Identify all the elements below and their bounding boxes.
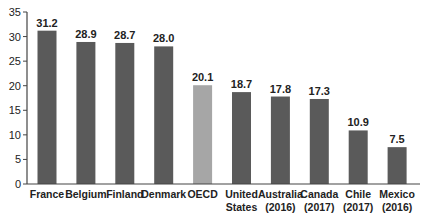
bar (349, 130, 368, 184)
bars: 31.228.928.728.020.118.717.817.310.97.5 (36, 17, 406, 184)
bar (193, 85, 212, 184)
x-category-label: (2016) (382, 201, 412, 213)
y-tick-label: 15 (9, 104, 21, 116)
x-axis: FranceBelgiumFinlandDenmarkOECDUnitedSta… (27, 184, 420, 213)
x-category-label: Finland (106, 188, 143, 200)
y-tick-label: 20 (9, 80, 21, 92)
y-tick-label: 25 (9, 55, 21, 67)
y-axis: 05101520253035 (9, 6, 27, 190)
bar-chart: 05101520253035 31.228.928.728.020.118.71… (0, 0, 432, 218)
x-category-label: Belgium (65, 188, 106, 200)
y-tick-label: 10 (9, 129, 21, 141)
x-category-label: States (226, 201, 258, 213)
x-category-label: Denmark (141, 188, 186, 200)
bar-value-label: 28.0 (153, 32, 174, 44)
y-tick-label: 0 (15, 178, 21, 190)
bar (271, 97, 290, 184)
bar-value-label: 28.7 (114, 29, 135, 41)
bar (388, 147, 407, 184)
x-category-label: (2017) (304, 201, 334, 213)
x-category-label: Australia (258, 188, 303, 200)
x-category-label: (2017) (343, 201, 373, 213)
x-category-label: Canada (300, 188, 338, 200)
x-category-label: France (30, 188, 65, 200)
bar-value-label: 17.3 (309, 85, 330, 97)
x-category-label: Mexico (379, 188, 415, 200)
bar (310, 99, 329, 184)
bar-value-label: 7.5 (389, 133, 404, 145)
bar-value-label: 20.1 (192, 71, 213, 83)
x-category-label: United (225, 188, 258, 200)
y-tick-label: 30 (9, 31, 21, 43)
y-tick-label: 5 (15, 153, 21, 165)
x-category-label: OECD (187, 188, 218, 200)
bar-value-label: 28.9 (75, 28, 96, 40)
bar (76, 42, 95, 184)
x-category-label: (2016) (265, 201, 295, 213)
bar (38, 31, 57, 184)
x-category-label: Chile (345, 188, 371, 200)
bar-value-label: 10.9 (347, 116, 368, 128)
bar (154, 46, 173, 184)
bar-value-label: 31.2 (36, 17, 57, 29)
bar (232, 92, 251, 184)
bar-value-label: 17.8 (270, 83, 291, 95)
bar-value-label: 18.7 (231, 78, 252, 90)
y-tick-label: 35 (9, 6, 21, 18)
bar (115, 43, 134, 184)
